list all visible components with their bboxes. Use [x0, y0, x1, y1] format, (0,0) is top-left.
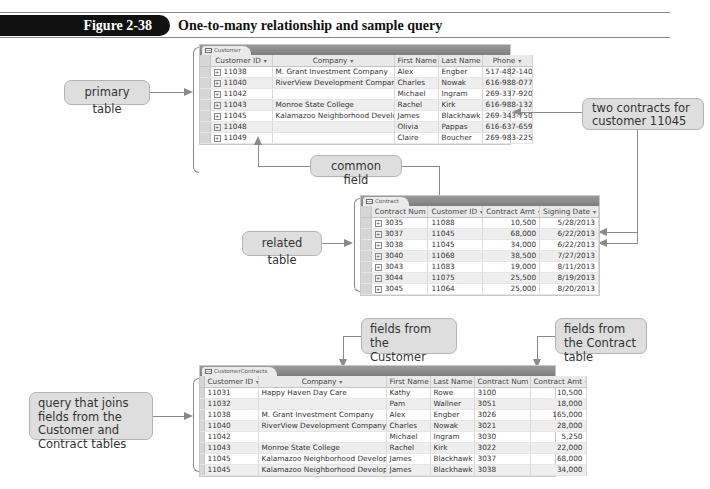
table-cell[interactable]: Blackhawk	[430, 454, 474, 465]
table-row[interactable]: +30371104568,0006/22/2013	[361, 229, 599, 240]
table-cell[interactable]: Nowak	[438, 78, 482, 89]
table-cell[interactable]: 19,000	[483, 262, 540, 273]
tab-customer[interactable]: Customer	[202, 46, 251, 55]
table-row[interactable]: 11045Kalamazoo Neighborhood DevelopmentJ…	[200, 454, 586, 465]
dropdown-arrow-icon[interactable]: ▾	[339, 378, 342, 385]
column-header[interactable]: Last Name▾	[430, 376, 474, 388]
table-cell[interactable]: 68,000	[530, 454, 586, 465]
table-cell[interactable]: +11040	[210, 78, 272, 89]
table-cell[interactable]: +3044	[371, 273, 428, 284]
table-cell[interactable]: 11088	[428, 218, 483, 229]
table-cell[interactable]: +3035	[371, 218, 428, 229]
column-header[interactable]: First Name▾	[386, 376, 430, 388]
table-cell[interactable]: RiverView Development Company	[272, 78, 394, 89]
table-cell[interactable]: 616-988-1320	[482, 100, 532, 111]
table-cell[interactable]: 165,000	[530, 410, 586, 421]
expand-icon[interactable]: +	[214, 124, 221, 131]
table-cell[interactable]: 3038	[474, 465, 530, 476]
table-cell[interactable]: Kathy	[386, 388, 430, 399]
table-cell[interactable]: 11083	[428, 262, 483, 273]
table-cell[interactable]: Pam	[386, 399, 430, 410]
table-cell[interactable]: Rachel	[394, 100, 438, 111]
row-selector[interactable]	[361, 251, 371, 262]
table-cell[interactable]: 25,000	[483, 284, 540, 295]
table-row[interactable]: 11031Happy Haven Day CareKathyRowe310010…	[200, 388, 586, 399]
column-header[interactable]: Customer ID▾	[204, 376, 258, 388]
table-cell[interactable]: Blackhawk	[438, 111, 482, 122]
table-cell[interactable]: Charles	[386, 421, 430, 432]
table-cell[interactable]: Wallner	[430, 399, 474, 410]
table-cell[interactable]: Pappas	[438, 122, 482, 133]
table-cell[interactable]: 11064	[428, 284, 483, 295]
table-cell[interactable]: Rachel	[386, 443, 430, 454]
table-cell[interactable]: 6/22/2013	[540, 240, 599, 251]
expand-icon[interactable]: +	[214, 91, 221, 98]
table-cell[interactable]: Kirk	[438, 100, 482, 111]
table-cell[interactable]: 616-637-6591	[482, 122, 532, 133]
table-cell[interactable]: Monroe State College	[272, 100, 394, 111]
table-cell[interactable]: Happy Haven Day Care	[258, 388, 386, 399]
table-cell[interactable]: 11045	[428, 240, 483, 251]
column-header[interactable]: Contract Amt▾	[483, 206, 540, 218]
table-cell[interactable]: 11043	[204, 443, 258, 454]
expand-icon[interactable]: +	[214, 80, 221, 87]
table-cell[interactable]: 8/20/2013	[540, 284, 599, 295]
tab-contract[interactable]: Contract	[363, 197, 409, 206]
table-cell[interactable]: 38,500	[483, 251, 540, 262]
table-row[interactable]: +30451106425,0008/20/2013	[361, 284, 599, 295]
column-header[interactable]: First Name▾	[394, 55, 438, 67]
table-cell[interactable]: +11045	[210, 111, 272, 122]
column-header[interactable]: Phone▾	[482, 55, 532, 67]
table-cell[interactable]: Engber	[438, 67, 482, 78]
column-header[interactable]: Company▾	[272, 55, 394, 67]
table-cell[interactable]	[272, 89, 394, 100]
table-row[interactable]: 11045Kalamazoo Neighborhood DevelopmentJ…	[200, 465, 586, 476]
table-row[interactable]: +11049ClaireBoucher269-983-2255	[200, 133, 532, 144]
dropdown-arrow-icon[interactable]: ▾	[593, 208, 596, 215]
table-cell[interactable]: 5/28/2013	[540, 218, 599, 229]
table-cell[interactable]: 28,000	[530, 421, 586, 432]
column-header[interactable]: Signing Date▾	[540, 206, 599, 218]
table-cell[interactable]: 11045	[204, 465, 258, 476]
table-cell[interactable]: 3026	[474, 410, 530, 421]
table-cell[interactable]: 25,500	[483, 273, 540, 284]
table-cell[interactable]: Kalamazoo Neighborhood Development	[272, 111, 394, 122]
dropdown-arrow-icon[interactable]: ▾	[350, 57, 353, 64]
expand-icon[interactable]: +	[214, 135, 221, 142]
expand-icon[interactable]: +	[375, 253, 382, 260]
table-cell[interactable]: 269-983-2255	[482, 133, 532, 144]
table-cell[interactable]: Olivia	[394, 122, 438, 133]
table-cell[interactable]: 11032	[204, 399, 258, 410]
table-cell[interactable]: Nowak	[430, 421, 474, 432]
dropdown-arrow-icon[interactable]: ▾	[264, 57, 267, 64]
row-selector[interactable]	[200, 111, 210, 122]
table-cell[interactable]: 11031	[204, 388, 258, 399]
table-row[interactable]: +30431108319,0008/11/2013	[361, 262, 599, 273]
table-cell[interactable]: 11045	[204, 454, 258, 465]
table-cell[interactable]	[272, 133, 394, 144]
table-cell[interactable]: Kalamazoo Neighborhood Development	[258, 465, 386, 476]
expand-icon[interactable]: +	[214, 113, 221, 120]
table-cell[interactable]: 7/27/2013	[540, 251, 599, 262]
row-selector[interactable]	[200, 78, 210, 89]
column-header[interactable]: Contract Num▾	[371, 206, 428, 218]
table-cell[interactable]: 8/19/2013	[540, 273, 599, 284]
row-selector[interactable]	[200, 100, 210, 111]
table-cell[interactable]: Claire	[394, 133, 438, 144]
table-cell[interactable]: Engber	[430, 410, 474, 421]
row-selector[interactable]	[200, 89, 210, 100]
table-cell[interactable]	[258, 432, 386, 443]
table-cell[interactable]: 11038	[204, 410, 258, 421]
dropdown-arrow-icon[interactable]: ▾	[518, 57, 521, 64]
table-cell[interactable]: Rowe	[430, 388, 474, 399]
table-cell[interactable]: 34,000	[483, 240, 540, 251]
table-cell[interactable]: +11042	[210, 89, 272, 100]
table-cell[interactable]: Charles	[394, 78, 438, 89]
table-row[interactable]: +11043Monroe State CollegeRachelKirk616-…	[200, 100, 532, 111]
table-row[interactable]: 11038M. Grant Investment CompanyAlexEngb…	[200, 410, 586, 421]
table-cell[interactable]: James	[394, 111, 438, 122]
table-cell[interactable]: 3100	[474, 388, 530, 399]
tab-customer-contracts[interactable]: CustomerContracts	[202, 367, 277, 376]
table-cell[interactable]: Blackhawk	[430, 465, 474, 476]
table-cell[interactable]: +11038	[210, 67, 272, 78]
